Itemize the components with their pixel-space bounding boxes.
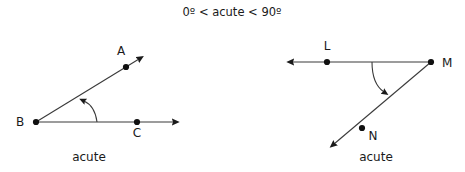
- angle-arc-m: [372, 62, 384, 92]
- point-label-l: L: [324, 39, 331, 53]
- left-angle-diagram: B A C acute: [16, 44, 174, 164]
- left-caption: acute: [72, 150, 106, 164]
- angle-arc-b: [84, 101, 97, 122]
- point-label-a: A: [117, 44, 126, 58]
- right-angle-diagram: M L N acute: [292, 39, 452, 164]
- figure-title: 0º < acute < 90º: [183, 5, 282, 19]
- point-c-dot: [134, 119, 140, 125]
- point-b-dot: [33, 119, 39, 125]
- point-n-dot: [359, 125, 365, 131]
- right-caption: acute: [359, 150, 393, 164]
- ray-mn-line: [334, 62, 431, 144]
- figure-root: 0º < acute < 90º B A C acute: [0, 0, 465, 172]
- point-label-c: C: [133, 126, 141, 140]
- point-m-dot: [428, 59, 434, 65]
- point-label-b: B: [16, 115, 24, 129]
- point-label-n: N: [369, 129, 378, 143]
- point-a-dot: [123, 64, 129, 70]
- point-l-dot: [324, 59, 330, 65]
- point-label-m: M: [442, 56, 452, 70]
- geometry-canvas: 0º < acute < 90º B A C acute: [0, 0, 465, 172]
